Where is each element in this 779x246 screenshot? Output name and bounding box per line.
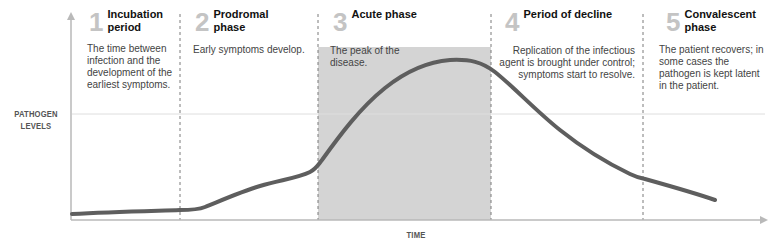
phase-title-line1: Prodromal [213, 8, 268, 21]
phase-title-line1: Period of decline [523, 8, 612, 21]
phase-title: Period of decline [523, 8, 612, 21]
y-axis-label: PATHOGEN LEVELS [12, 108, 60, 132]
phase-description: The peak of the disease. [330, 45, 410, 69]
phase-title-line1: Incubation [107, 8, 163, 21]
phase-title: Acute phase [351, 8, 416, 21]
phase-title: Convalescent phase [684, 8, 756, 34]
phase-title-line2: period [107, 21, 163, 34]
phase-number: 4 [505, 9, 519, 35]
phase-description: The patient recovers; in some cases the … [659, 44, 769, 92]
phase-title: Incubation period [107, 8, 163, 34]
phase-decline: 4 Period of decline Replication of the i… [505, 6, 645, 81]
phase-number: 3 [333, 9, 347, 35]
phase-header: 5 Convalescent phase [666, 6, 778, 35]
y-axis-label-line1: PATHOGEN [12, 108, 60, 120]
phase-number: 2 [195, 9, 209, 35]
phase-number: 5 [666, 9, 680, 35]
phase-description: Early symptoms develop. [193, 44, 320, 56]
phase-title-line1: Acute phase [351, 8, 416, 21]
phase-title-line1: Convalescent [684, 8, 756, 21]
phase-title: Prodromal phase [213, 8, 268, 34]
phase-header: 4 Period of decline [505, 6, 645, 35]
phase-title-line2: phase [684, 21, 756, 34]
phase-title-line2: phase [213, 21, 268, 34]
x-axis-arrow-icon [760, 216, 768, 224]
phase-acute: 3 Acute phase The peak of the disease. [333, 6, 483, 69]
phase-header: 2 Prodromal phase [195, 6, 320, 35]
phase-incubation: 1 Incubation period The time between inf… [89, 6, 181, 91]
x-axis-label: TIME [399, 230, 433, 240]
phase-description: The time between infection and the devel… [87, 43, 177, 91]
phase-header: 1 Incubation period [89, 6, 181, 35]
phase-prodromal: 2 Prodromal phase Early symptoms develop… [195, 6, 320, 56]
y-axis-label-line2: LEVELS [12, 120, 60, 132]
phase-number: 1 [89, 9, 103, 35]
y-axis-arrow-icon [67, 12, 75, 20]
phase-description: Replication of the infectious agent is b… [495, 45, 635, 81]
phase-header: 3 Acute phase [333, 6, 483, 35]
phase-convalescent: 5 Convalescent phase The patient recover… [666, 6, 778, 92]
